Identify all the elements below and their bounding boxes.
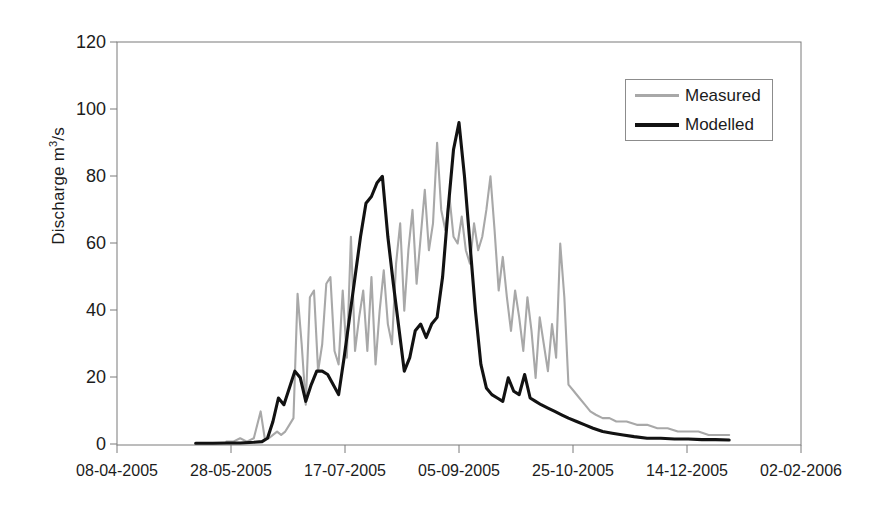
x-axis-ticks (117, 445, 801, 453)
legend-swatch-measured-icon (635, 94, 679, 97)
y-axis-ticks (110, 42, 117, 444)
legend-item-measured: Measured (626, 80, 772, 111)
series-line-modelled (196, 123, 730, 444)
legend-label-measured: Measured (685, 86, 761, 106)
discharge-time-series-chart: Discharge m3/s 120 100 80 60 40 20 0 08-… (0, 0, 885, 511)
legend-item-modelled: Modelled (626, 109, 772, 140)
legend-swatch-modelled-icon (635, 123, 679, 127)
legend: Measured Modelled (625, 79, 773, 141)
series-line-measured (226, 143, 729, 442)
legend-label-modelled: Modelled (685, 115, 754, 135)
plot-area (0, 0, 885, 511)
